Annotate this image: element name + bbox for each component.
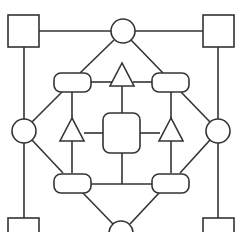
- edge-c-right-rr-br: [180, 140, 210, 173]
- circle-node-top: [111, 19, 135, 43]
- rounded-node-top-left: [54, 73, 91, 92]
- square-node-top-left: [8, 15, 39, 47]
- edge-c-bottom-rr-bl: [82, 192, 113, 224]
- edge-c-bottom-rr-br: [130, 192, 160, 224]
- network-diagram: [0, 0, 247, 232]
- square-node-bottom-right: [203, 218, 234, 232]
- square-node-top-right: [203, 15, 234, 47]
- rounded-node-bottom-right: [152, 174, 189, 193]
- triangle-node-left: [60, 118, 84, 141]
- center-node: [103, 113, 140, 153]
- rounded-node-top-right: [152, 73, 189, 92]
- edge-c-top-rr-tr: [131, 40, 163, 73]
- edge-c-left-rr-bl: [32, 140, 63, 173]
- circle-node-left: [12, 119, 36, 143]
- rounded-node-bottom-left: [54, 174, 91, 193]
- triangle-node-top: [110, 63, 134, 86]
- edge-c-top-rr-tl: [80, 40, 114, 73]
- square-node-bottom-left: [8, 218, 39, 232]
- circle-node-right: [206, 119, 230, 143]
- edge-c-left-rr-tl: [32, 92, 62, 122]
- triangle-node-right: [159, 118, 183, 141]
- edge-c-right-rr-tr: [181, 92, 210, 122]
